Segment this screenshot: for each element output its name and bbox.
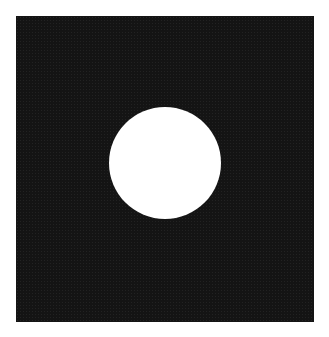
- image-frame: [16, 16, 314, 322]
- bright-spot: [109, 107, 221, 219]
